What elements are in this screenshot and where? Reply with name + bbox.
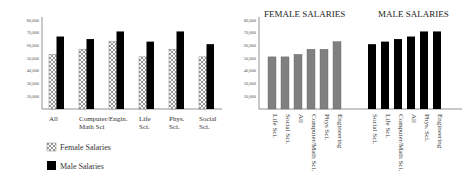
female-salary-bar: [79, 49, 87, 109]
legend-swatch-male: [47, 161, 56, 170]
x-category-label: All: [297, 114, 305, 123]
x-category-label: Sci.: [139, 123, 150, 131]
x-category-label: Life Sci.: [384, 114, 392, 138]
male-salary-bar: [117, 31, 125, 109]
male-salary-bar: [381, 42, 389, 109]
y-tick-label: 50,000: [27, 56, 40, 62]
x-category-label: All: [49, 115, 58, 123]
female-salary-bar: [320, 49, 328, 109]
x-category-label: Math Sci: [79, 123, 105, 131]
legend-label-female: Female Salaries: [60, 143, 111, 152]
male-salary-bar: [147, 42, 155, 109]
right-chart: 20,00030,00040,00050,00060,00070,00080,0…: [244, 9, 462, 171]
y-tick-label: 40,000: [27, 68, 40, 74]
male-salary-bar: [87, 39, 95, 109]
x-category-label: Computer/Math Sci.: [397, 114, 405, 171]
female-salary-bar: [268, 57, 276, 109]
x-category-label: Social: [199, 115, 217, 123]
male-salary-bar: [177, 31, 185, 109]
female-salary-bar: [307, 49, 315, 109]
x-category-label: Phys.: [169, 115, 185, 123]
male-salary-bar: [433, 31, 441, 109]
legend-swatch-female: [47, 143, 56, 151]
male-salary-bar: [57, 37, 65, 109]
male-salary-bar: [394, 39, 402, 109]
male-salaries-title: MALE SALARIES: [378, 9, 449, 19]
y-tick-label: 50,000: [244, 56, 257, 62]
x-category-label: Engin.: [109, 115, 128, 123]
x-category-label: Phys Sci.: [323, 114, 331, 140]
y-tick-label: 60,000: [244, 43, 257, 49]
female-salary-bar: [294, 54, 302, 109]
female-salaries-title: FEMALE SALARIES: [264, 9, 345, 19]
female-salary-bar: [49, 54, 57, 109]
x-category-label: All: [410, 114, 418, 123]
chart-canvas: 20,00030,00040,00050,00060,00070,00080,0…: [0, 0, 473, 184]
y-tick-label: 30,000: [244, 81, 257, 87]
x-category-label: Engineering: [336, 114, 344, 149]
y-tick-label: 20,000: [27, 94, 40, 100]
y-tick-label: 80,000: [244, 18, 257, 24]
y-tick-label: 70,000: [244, 30, 257, 36]
x-category-label: Sci.: [199, 123, 210, 131]
y-tick-label: 20,000: [244, 94, 257, 100]
x-category-label: Life Sci.: [271, 114, 279, 138]
x-category-label: Phys. Sci.: [423, 114, 431, 142]
y-tick-label: 40,000: [244, 68, 257, 74]
female-salary-bar: [281, 57, 289, 109]
male-salary-bar: [207, 44, 215, 109]
x-category-label: Computer/: [79, 115, 109, 123]
male-salary-bar: [407, 37, 415, 109]
legend-label-male: Male Salaries: [60, 162, 104, 171]
x-category-label: Life: [139, 115, 151, 123]
male-salary-bar: [368, 44, 376, 109]
x-category-label: Computer/Math Sci.: [310, 114, 318, 171]
y-tick-label: 30,000: [27, 81, 40, 87]
female-salary-bar: [199, 57, 207, 109]
x-category-label: Engineering: [436, 114, 444, 149]
female-salary-bar: [109, 42, 117, 109]
y-tick-label: 70,000: [27, 30, 40, 36]
x-category-label: Social Sci.: [284, 114, 292, 144]
left-chart: 20,00030,00040,00050,00060,00070,00080,0…: [27, 17, 222, 171]
y-tick-label: 80,000: [27, 18, 40, 24]
y-tick-label: 60,000: [27, 43, 40, 49]
x-category-label: Social Sci.: [371, 114, 379, 144]
x-category-label: Sci.: [169, 123, 180, 131]
female-salary-bar: [169, 49, 177, 109]
male-salary-bar: [420, 31, 428, 109]
female-salary-bar: [333, 42, 341, 109]
female-salary-bar: [139, 57, 147, 109]
